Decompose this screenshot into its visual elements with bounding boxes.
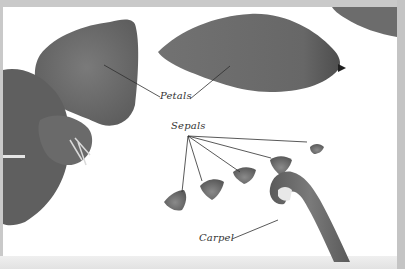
label-carpel: Carpel bbox=[199, 232, 234, 243]
petal-corner-fragment bbox=[332, 7, 397, 37]
label-petals: Petals bbox=[160, 90, 192, 101]
petal-right bbox=[158, 14, 346, 92]
carpel bbox=[270, 172, 350, 262]
flower-illustration bbox=[0, 0, 405, 269]
label-sepals: Sepals bbox=[171, 120, 206, 131]
